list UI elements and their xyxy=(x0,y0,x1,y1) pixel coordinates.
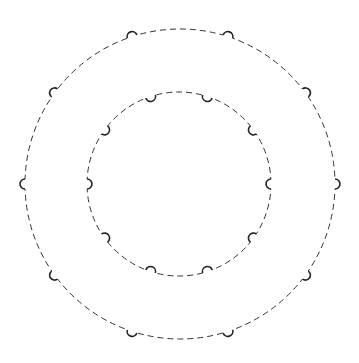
inner-ring-circle xyxy=(87,92,271,276)
outer-ring-circle xyxy=(25,29,335,339)
outer-ring xyxy=(20,29,340,339)
concentric-rings-diagram xyxy=(0,0,359,363)
inner-ring xyxy=(87,92,271,276)
